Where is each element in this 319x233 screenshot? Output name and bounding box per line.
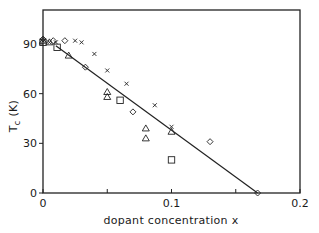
y-axis-label: Tc(K)	[7, 100, 22, 133]
diamond-marker	[62, 38, 68, 44]
square-marker	[117, 97, 123, 103]
cross-marker	[92, 52, 96, 56]
y-tick-label: 30	[23, 137, 37, 150]
diamond-marker	[130, 109, 136, 115]
tc-vs-dopant-chart: 00.10.20306090 dopant concentration x Tc…	[0, 0, 319, 233]
cross-marker	[105, 68, 109, 72]
y-axis-label-main: T	[7, 125, 20, 133]
x-tick-label: 0.2	[291, 197, 309, 210]
y-tick-label: 0	[30, 187, 37, 200]
square-marker	[168, 157, 174, 163]
y-axis-label-sub: c	[13, 120, 22, 125]
fit-line	[56, 46, 258, 193]
y-axis-label-unit: (K)	[7, 100, 20, 117]
diamond-marker	[207, 139, 213, 145]
triangle-marker	[142, 125, 149, 131]
svg-text:Tc(K): Tc(K)	[7, 100, 22, 133]
cross-marker	[80, 40, 84, 44]
cross-marker	[73, 39, 77, 43]
y-tick-label: 60	[23, 88, 37, 101]
x-axis-label: dopant concentration x	[103, 214, 238, 227]
axis-ticks: 00.10.20306090	[23, 38, 309, 210]
y-tick-label: 90	[23, 38, 37, 51]
x-tick-label: 0.1	[163, 197, 181, 210]
plot-frame	[43, 10, 300, 193]
cross-marker	[153, 103, 157, 107]
triangle-marker	[142, 135, 149, 141]
data-markers	[40, 36, 261, 196]
cross-marker	[125, 82, 129, 86]
x-tick-label: 0	[40, 197, 47, 210]
